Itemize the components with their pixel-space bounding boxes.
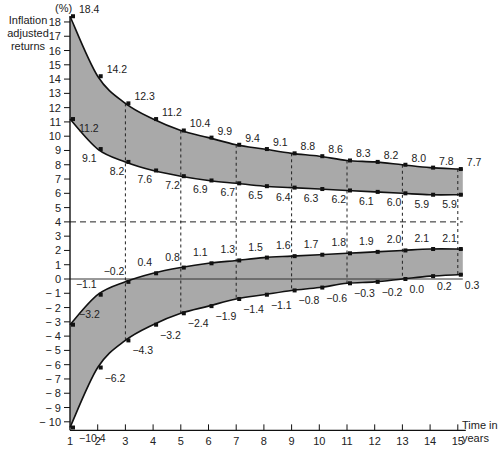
y-tick-label: − 5: [45, 344, 61, 356]
data-label: −4.3: [132, 344, 153, 356]
data-point: [126, 160, 130, 164]
data-point: [293, 254, 297, 258]
data-label: 8.8: [301, 140, 316, 152]
data-point: [71, 323, 75, 327]
x-tick-label: 6: [205, 435, 211, 447]
y-tick-label: − 8: [45, 387, 61, 399]
data-point: [376, 250, 380, 254]
data-label: −3.2: [160, 329, 181, 341]
data-point: [182, 266, 186, 270]
data-label: 1.8: [331, 236, 346, 248]
data-label: −0.6: [326, 292, 347, 304]
data-label: 6.5: [248, 189, 263, 201]
y-tick-label: 5: [55, 202, 61, 214]
y-tick-label: − 1: [45, 287, 61, 299]
data-label: 6.1: [359, 195, 374, 207]
y-tick-label: − 3: [45, 316, 61, 328]
data-point: [403, 163, 407, 167]
y-tick-label: 17: [49, 30, 61, 42]
y-tick-label: 6: [55, 187, 61, 199]
data-point: [403, 248, 407, 252]
data-point: [71, 426, 75, 430]
y-tick-label: 0: [55, 273, 61, 285]
data-point: [403, 277, 407, 281]
y-tick-label: 13: [49, 87, 61, 99]
data-label: 7.2: [165, 179, 180, 191]
data-point: [210, 304, 214, 308]
data-point: [210, 136, 214, 140]
data-label: 6.3: [304, 192, 319, 204]
data-point: [237, 181, 241, 185]
data-label: 8.2: [110, 165, 125, 177]
data-point: [237, 258, 241, 262]
data-label: 9.9: [218, 125, 233, 137]
data-label: 11.2: [79, 122, 99, 134]
data-label: −3.2: [79, 308, 100, 320]
data-label: 1.9: [359, 235, 374, 247]
data-point: [210, 178, 214, 182]
data-label: 11.2: [162, 106, 182, 118]
data-label: −1.4: [243, 303, 264, 315]
data-label: 7.6: [137, 173, 152, 185]
data-label: −0.2: [382, 286, 403, 298]
data-point: [126, 338, 130, 342]
data-point: [431, 193, 435, 197]
data-label: −1.1: [271, 299, 292, 311]
data-label: 9.1: [82, 152, 97, 164]
y-tick-label: 15: [49, 59, 61, 71]
data-point: [182, 174, 186, 178]
data-label: −10.4: [79, 432, 106, 444]
y-tick-label: 7: [55, 173, 61, 185]
data-label: 1.3: [221, 243, 236, 255]
data-label: 1.1: [193, 246, 208, 258]
data-point: [126, 101, 130, 105]
data-point: [403, 191, 407, 195]
y-tick-label: 16: [49, 45, 61, 57]
data-point: [320, 187, 324, 191]
data-point: [376, 190, 380, 194]
y-tick-label: − 4: [45, 330, 61, 342]
y-tick-label: 1: [55, 259, 61, 271]
data-point: [348, 158, 352, 162]
y-tick-label: 2: [55, 244, 61, 256]
data-label: 2.0: [387, 233, 402, 245]
data-point: [182, 311, 186, 315]
y-tick-label: 18: [49, 16, 61, 28]
data-label: 1.5: [248, 241, 263, 253]
data-label: 8.3: [356, 147, 371, 159]
data-point: [99, 293, 103, 297]
y-tick-label: 14: [49, 73, 61, 85]
data-point: [154, 323, 158, 327]
data-point: [154, 168, 158, 172]
y-tick-label: − 9: [45, 402, 61, 414]
data-label: 0.3: [465, 279, 480, 291]
data-label: 9.1: [273, 136, 288, 148]
data-point: [459, 247, 463, 251]
y-tick-label: − 10: [39, 416, 61, 428]
data-label: 6.0: [387, 196, 402, 208]
data-label: 8.0: [411, 152, 426, 164]
y-tick-label: 10: [49, 130, 61, 142]
data-point: [265, 184, 269, 188]
data-point: [431, 274, 435, 278]
axes: − 10− 9− 8− 7− 6− 5− 4− 3− 2− 1012345678…: [39, 16, 466, 447]
data-point: [431, 247, 435, 251]
data-label: 6.9: [193, 183, 208, 195]
data-point: [293, 288, 297, 292]
data-label: 6.4: [276, 191, 291, 203]
data-label: −2.4: [188, 317, 209, 329]
data-label: 10.4: [190, 117, 211, 129]
data-label: −0.2: [104, 265, 125, 277]
y-tick-label: − 7: [45, 373, 61, 385]
data-label: 0.0: [409, 283, 424, 295]
data-points: 18.414.212.311.210.49.99.49.18.88.68.38.…: [71, 3, 482, 443]
data-point: [99, 366, 103, 370]
data-point: [293, 151, 297, 155]
data-label: −0.8: [299, 294, 320, 306]
x-tick-label: 4: [150, 435, 156, 447]
data-label: 7.7: [467, 156, 482, 168]
y-tick-label: 3: [55, 230, 61, 242]
data-point: [265, 293, 269, 297]
data-label: 8.2: [384, 149, 399, 161]
y-tick-label: 8: [55, 159, 61, 171]
